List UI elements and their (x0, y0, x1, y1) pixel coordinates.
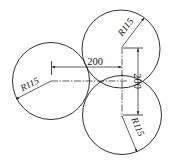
radius-label-left: R115 (18, 75, 41, 93)
circle-top-right (82, 10, 160, 88)
radius-label-bottom-right: R115 (129, 115, 146, 138)
dimension-label-vertical: 200 (132, 73, 143, 89)
radius-label-top-right: R115 (115, 16, 135, 38)
technical-drawing: 200 200 R115 R115 R115 (0, 0, 175, 161)
dimension-label-horizontal: 200 (87, 56, 103, 67)
